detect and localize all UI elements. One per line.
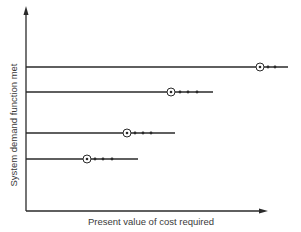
diagram-figure: System demand function met Present value… (0, 0, 301, 232)
diagram-plot (0, 0, 301, 232)
option-line-1 (26, 63, 288, 71)
dot-marker-icon (179, 91, 182, 94)
circle-center-dot-icon (170, 91, 173, 94)
dot-marker-icon (94, 158, 97, 161)
y-axis-arrow-icon (24, 6, 29, 15)
dot-marker-icon (102, 158, 105, 161)
option-line-4 (26, 155, 138, 163)
dot-marker-icon (134, 132, 137, 135)
dot-marker-icon (111, 158, 114, 161)
x-axis-arrow-icon (259, 209, 268, 214)
y-axis-label: System demand function met (8, 63, 19, 186)
circle-center-dot-icon (126, 132, 129, 135)
option-line-3 (26, 129, 175, 137)
dot-marker-icon (150, 132, 153, 135)
option-lines (26, 63, 288, 163)
dot-marker-icon (142, 132, 145, 135)
dot-marker-icon (274, 66, 277, 69)
dot-marker-icon (267, 66, 270, 69)
x-axis-label: Present value of cost required (88, 216, 214, 227)
option-line-2 (26, 88, 213, 96)
dot-marker-icon (196, 91, 199, 94)
axes (24, 6, 269, 214)
circle-center-dot-icon (86, 158, 89, 161)
dot-marker-icon (187, 91, 190, 94)
circle-center-dot-icon (259, 66, 262, 69)
